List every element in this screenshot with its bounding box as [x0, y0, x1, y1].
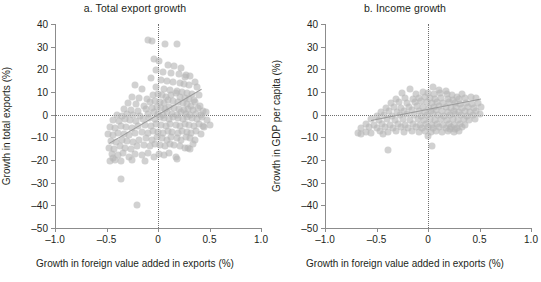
data-point — [141, 158, 148, 165]
data-point — [134, 202, 141, 209]
panel-b-y-tick-label: 0 — [312, 109, 318, 120]
data-point — [109, 154, 116, 161]
panel-b-y-tick-label: –50 — [301, 223, 318, 234]
panel-b-y-tick — [321, 24, 325, 25]
panel-b-y-axis-line — [325, 24, 326, 228]
panel-a-title: a. Total export growth — [0, 2, 270, 14]
data-point — [190, 141, 197, 148]
panel-b-y-axis-title: Growth in GDP per capita (%) — [271, 60, 282, 192]
panel-a-plot-area: 403020100–10–20–30–40–50–1.0–0.500.51.0 — [55, 24, 261, 228]
panel-b-y-tick-label: 10 — [307, 87, 318, 98]
panel-b-y-tick — [321, 47, 325, 48]
panel-b-x-tick — [377, 228, 378, 232]
data-point — [425, 133, 432, 140]
panel-b-y-tick-label: 30 — [307, 41, 318, 52]
data-point — [129, 157, 136, 164]
data-point — [181, 74, 188, 81]
panel-b-y-tick — [321, 137, 325, 138]
panel-a-y-tick-label: 40 — [37, 19, 48, 30]
panel-a-y-tick-label: –20 — [31, 155, 48, 166]
panel-b-y-tick-label: 40 — [307, 19, 318, 30]
data-point — [152, 67, 159, 74]
data-point — [156, 58, 163, 65]
panel-b-y-tick — [321, 160, 325, 161]
panel-b-x-tick-label: 1.0 — [524, 234, 538, 245]
data-point — [384, 146, 391, 153]
panel-a-y-tick — [51, 183, 55, 184]
panel-a-x-tick-label: 0 — [155, 234, 161, 245]
data-point — [401, 128, 408, 135]
panel-a-y-tick — [51, 69, 55, 70]
panel-a-y-tick-label: –30 — [31, 177, 48, 188]
panel-a-y-axis-title: Growth in total exports (%) — [1, 67, 12, 185]
data-point — [160, 68, 167, 75]
data-point — [173, 155, 180, 162]
panel-b-y-tick-label: –30 — [301, 177, 318, 188]
panel-a-y-tick-label: –40 — [31, 200, 48, 211]
data-point — [472, 116, 479, 123]
panel-b-x-tick — [325, 228, 326, 232]
figure-two-scatter-panels: a. Total export growth Growth in total e… — [0, 0, 541, 282]
data-point — [162, 41, 169, 48]
data-point — [393, 127, 400, 134]
panel-b-x-tick-label: –1.0 — [315, 234, 334, 245]
data-point — [173, 41, 180, 48]
panel-b-x-tick-label: 0.5 — [473, 234, 487, 245]
data-point — [200, 123, 207, 130]
panel-b-x-tick — [531, 228, 532, 232]
panel-b-y-tick-label: 20 — [307, 64, 318, 75]
panel-b-y-tick-label: –40 — [301, 200, 318, 211]
panel-a-y-tick — [51, 92, 55, 93]
panel-a-y-tick — [51, 47, 55, 48]
data-point — [198, 130, 205, 137]
panel-a-x-tick-label: 0.5 — [203, 234, 217, 245]
data-point — [429, 143, 436, 150]
panel-a-x-tick — [55, 228, 56, 232]
data-point — [148, 38, 155, 45]
panel-b-x-tick — [428, 228, 429, 232]
panel-a-x-tick — [261, 228, 262, 232]
data-point — [408, 127, 415, 134]
panel-a-y-tick-label: 20 — [37, 64, 48, 75]
panel-b-y-tick — [321, 183, 325, 184]
data-point — [358, 130, 365, 137]
panel-a-y-tick-label: 30 — [37, 41, 48, 52]
panel-b-x-tick-label: –0.5 — [367, 234, 386, 245]
panel-b-y-tick-label: –20 — [301, 155, 318, 166]
data-point — [206, 121, 213, 128]
panel-b-y-tick-label: –10 — [301, 132, 318, 143]
panel-b-y-tick — [321, 92, 325, 93]
data-point — [117, 176, 124, 183]
data-point — [379, 130, 386, 137]
panel-b-y-tick — [321, 69, 325, 70]
data-point — [368, 129, 375, 136]
panel-a-x-tick-label: –1.0 — [45, 234, 64, 245]
panel-b-x-tick-label: 0 — [425, 234, 431, 245]
panel-a-y-tick — [51, 24, 55, 25]
panel-a-y-tick-label: 0 — [42, 109, 48, 120]
panel-a-x-tick — [107, 228, 108, 232]
panel-a-y-tick-label: 10 — [37, 87, 48, 98]
panel-a-y-tick — [51, 137, 55, 138]
panel-income-growth: b. Income growth Growth in GDP per capit… — [270, 0, 540, 282]
data-point — [192, 78, 199, 85]
panel-total-export-growth: a. Total export growth Growth in total e… — [0, 0, 270, 282]
data-point — [147, 75, 154, 82]
data-point — [117, 158, 124, 165]
panel-b-title: b. Income growth — [270, 2, 540, 14]
data-point — [168, 69, 175, 76]
panel-b-plot-area: 403020100–10–20–30–40–50–1.0–0.500.51.0 — [325, 24, 531, 228]
panel-a-y-axis-line — [55, 24, 56, 228]
panel-a-x-tick — [210, 228, 211, 232]
panel-b-x-tick — [480, 228, 481, 232]
panel-b-y-tick — [321, 205, 325, 206]
panel-a-x-tick — [158, 228, 159, 232]
data-point — [446, 126, 453, 133]
panel-a-x-tick-label: –0.5 — [97, 234, 116, 245]
data-point — [138, 85, 145, 92]
panel-a-y-tick — [51, 160, 55, 161]
data-point — [196, 92, 203, 99]
panel-a-x-tick-label: 1.0 — [254, 234, 268, 245]
panel-a-y-tick-label: –10 — [31, 132, 48, 143]
panel-a-y-tick — [51, 205, 55, 206]
